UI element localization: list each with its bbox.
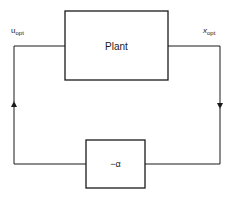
feedback-diagram: Plant −α uopt xopt xyxy=(0,0,232,199)
plant-label: Plant xyxy=(105,41,128,52)
feedback-line-left xyxy=(14,106,86,164)
output-signal-line xyxy=(168,46,220,104)
input-signal-line xyxy=(14,46,65,102)
input-signal-label: uopt xyxy=(11,26,24,36)
output-signal-label: xopt xyxy=(202,26,216,36)
feedback-line-right xyxy=(145,108,220,164)
gain-label: −α xyxy=(110,159,120,169)
